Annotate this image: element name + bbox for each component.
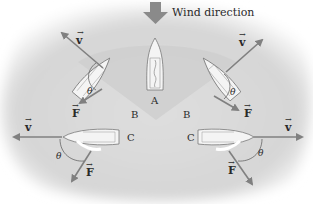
sailing-diagram: Wind direction A v → θ F → B v → θ F → B xyxy=(0,0,313,204)
angle-label: θ xyxy=(87,86,93,96)
boat-a-label: A xyxy=(150,95,159,106)
angle-label: θ xyxy=(258,148,264,158)
vector-arrow-mark: → xyxy=(228,158,235,167)
vector-arrow-mark: → xyxy=(239,30,246,39)
vector-arrow-mark: → xyxy=(77,28,84,37)
vector-arrow-mark: → xyxy=(72,101,79,110)
angle-label: θ xyxy=(230,87,236,97)
vector-arrow-mark: → xyxy=(25,115,32,124)
vector-arrow-mark: → xyxy=(244,101,251,110)
boat-b-right-label: B xyxy=(183,109,190,120)
vector-arrow-mark: → xyxy=(285,115,292,124)
boat-c-right-label: C xyxy=(187,132,195,143)
boat-c-left-label: C xyxy=(127,132,135,143)
angle-label: θ xyxy=(56,151,62,161)
vector-arrow-mark: → xyxy=(86,160,93,169)
boat-b-left-label: B xyxy=(131,109,138,120)
wind-direction-label: Wind direction xyxy=(172,6,254,19)
